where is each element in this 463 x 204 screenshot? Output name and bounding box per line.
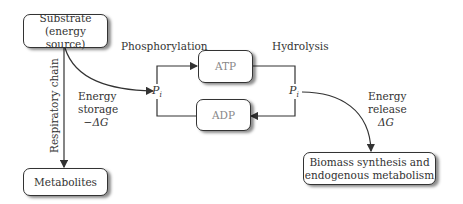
substrate-line1: Substrate xyxy=(24,12,107,25)
hydrolysis-label: Hydrolysis xyxy=(272,40,329,53)
phosphorylation-label: Phosphorylation xyxy=(121,40,208,53)
energy-storage-arrow xyxy=(65,48,153,91)
metabolites-label: Metabolites xyxy=(34,176,97,189)
substrate-line2: (energy source) xyxy=(24,25,107,51)
atp-to-pi-line xyxy=(253,66,295,84)
respiratory-chain-label: Respiratory chain xyxy=(48,63,60,153)
biomass-line2: endogenous metabolism xyxy=(305,169,434,182)
biomass-line1: Biomass synthesis and xyxy=(305,156,434,169)
phosphorylation-arrow xyxy=(157,66,197,84)
adp-node: ADP xyxy=(196,99,251,131)
pi-left: Pi xyxy=(152,84,162,99)
substrate-node: Substrate(energy source) xyxy=(23,14,108,48)
adp-to-pi-line xyxy=(157,99,196,116)
metabolites-node: Metabolites xyxy=(23,168,108,196)
pi-right-sub: i xyxy=(296,90,298,99)
energy-release-line2: release xyxy=(368,103,404,116)
energy-release-label: Energy release ΔG xyxy=(368,90,404,129)
pi-right: Pi xyxy=(289,84,299,99)
energy-storage-line3: −ΔG xyxy=(78,116,114,129)
adp-label: ADP xyxy=(212,109,235,122)
energy-storage-line2: storage xyxy=(78,103,114,116)
pi-left-sub: i xyxy=(159,90,161,99)
hydrolysis-arrow xyxy=(251,99,295,116)
biomass-node: Biomass synthesis andendogenous metaboli… xyxy=(303,152,436,185)
energy-release-line1: Energy xyxy=(368,90,404,103)
energy-storage-line1: Energy xyxy=(78,90,114,103)
energy-release-arrow xyxy=(302,92,371,151)
energy-storage-label: Energy storage −ΔG xyxy=(78,90,114,129)
atp-node: ATP xyxy=(198,50,253,83)
energy-release-line3: ΔG xyxy=(368,116,404,129)
atp-label: ATP xyxy=(215,60,236,73)
